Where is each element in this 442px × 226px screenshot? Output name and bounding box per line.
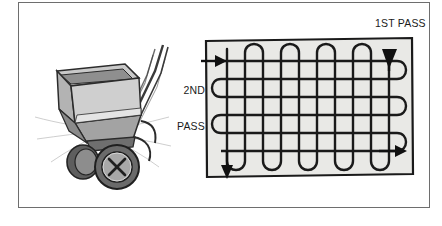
spreader-right-wheel <box>95 145 139 189</box>
label-second-pass-line2: PASS <box>171 120 205 132</box>
spreading-pattern-diagram <box>201 33 417 183</box>
label-first-pass: 1ST PASS <box>375 17 426 29</box>
spreader-hopper <box>57 64 141 151</box>
figure-canvas: 1ST PASS 2ND PASS <box>0 0 442 226</box>
label-second-pass: 2ND PASS <box>171 60 205 156</box>
label-second-pass-line1: 2ND <box>171 84 205 96</box>
spreader-illustration <box>29 31 189 191</box>
spreader-left-wheel <box>67 145 99 179</box>
lawn-area <box>206 38 413 177</box>
figure-frame: 1ST PASS 2ND PASS <box>18 2 430 208</box>
